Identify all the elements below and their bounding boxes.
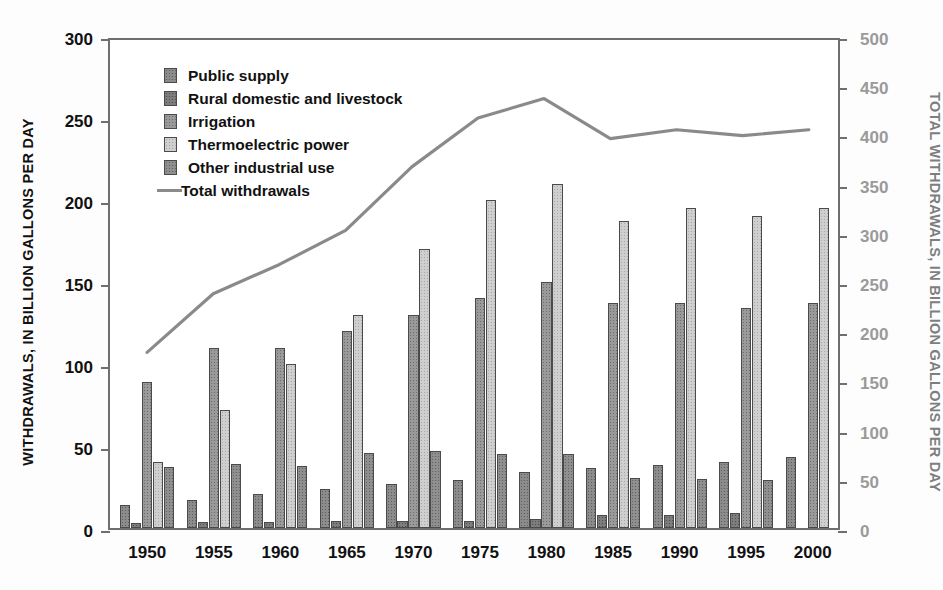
plot-area: 050100150200250300 050100150200250300350…	[108, 38, 840, 530]
y-tick-left	[101, 285, 110, 287]
y-tick-left	[101, 121, 110, 123]
y-tick-label-right: 500	[860, 31, 920, 48]
legend-item: Irrigation	[164, 110, 403, 133]
legend-item-label: Rural domestic and livestock	[188, 91, 403, 107]
y-tick-label-left: 0	[33, 523, 93, 540]
y-tick-right	[838, 433, 847, 435]
y-tick-label-left: 100	[33, 359, 93, 376]
legend-item: Other industrial use	[164, 156, 403, 179]
bar	[786, 457, 796, 528]
legend-item-label: Public supply	[188, 68, 289, 84]
legend-swatch-icon	[164, 114, 177, 129]
legend-item-label: Irrigation	[188, 114, 255, 130]
y-tick-label-right: 150	[860, 375, 920, 392]
y-tick-label-right: 300	[860, 228, 920, 245]
legend-swatch-icon	[164, 137, 177, 152]
y-tick-label-right: 400	[860, 129, 920, 146]
y-tick-right	[838, 285, 847, 287]
bar	[819, 208, 829, 528]
y-tick-right	[838, 383, 847, 385]
plot-inner: 050100150200250300 050100150200250300350…	[110, 40, 838, 528]
y-tick-right	[838, 88, 847, 90]
chart-legend: Public supplyRural domestic and livestoc…	[164, 64, 403, 202]
legend-swatch-icon	[164, 68, 177, 83]
legend-item: Thermoelectric power	[164, 133, 403, 156]
legend-item-label: Total withdrawals	[181, 183, 310, 199]
y-tick-label-left: 300	[33, 31, 93, 48]
y-tick-right	[838, 334, 847, 336]
y-tick-left	[101, 203, 110, 205]
legend-item-line: Total withdrawals	[164, 179, 403, 202]
bar	[808, 303, 818, 528]
legend-line-icon	[157, 189, 182, 192]
legend-item-label: Thermoelectric power	[188, 137, 349, 153]
x-tick-label: 2000	[773, 544, 853, 561]
y-tick-left	[101, 39, 110, 41]
y-tick-label-left: 50	[33, 441, 93, 458]
y-tick-label-right: 100	[860, 425, 920, 442]
legend-item: Public supply	[164, 64, 403, 87]
y-tick-label-right: 50	[860, 474, 920, 491]
y-tick-right	[838, 236, 847, 238]
chart-figure: WITHDRAWALS, IN BILLION GALLONS PER DAY …	[0, 0, 943, 590]
y-tick-label-right: 250	[860, 277, 920, 294]
legend-item: Rural domestic and livestock	[164, 87, 403, 110]
y-tick-label-right: 200	[860, 326, 920, 343]
y-tick-right	[838, 187, 847, 189]
y-tick-label-right: 0	[860, 523, 920, 540]
y-tick-label-right: 450	[860, 80, 920, 97]
y-tick-left	[101, 449, 110, 451]
legend-swatch-icon	[164, 160, 177, 175]
y-tick-label-left: 150	[33, 277, 93, 294]
y-tick-left	[101, 367, 110, 369]
legend-swatch-icon	[164, 91, 177, 106]
y-tick-right	[838, 39, 847, 41]
y-tick-right	[838, 482, 847, 484]
y-tick-right	[838, 137, 847, 139]
y-tick-right	[838, 531, 847, 533]
y-tick-label-left: 250	[33, 113, 93, 130]
y-tick-label-left: 200	[33, 195, 93, 212]
y-axis-label-right: TOTAL WITHDRAWALS, IN BILLION GALLONS PE…	[927, 32, 943, 552]
y-tick-label-right: 350	[860, 179, 920, 196]
y-tick-left	[101, 531, 110, 533]
legend-item-label: Other industrial use	[188, 160, 334, 176]
